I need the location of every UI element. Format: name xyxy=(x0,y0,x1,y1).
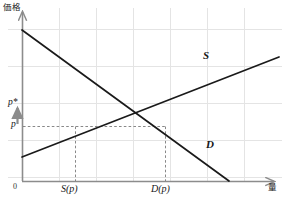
grid-lines xyxy=(8,8,282,181)
supply-demand-figure: 価格 量 0 p* p S(p) D(p) S D xyxy=(0,0,282,200)
diagram-canvas xyxy=(0,0,282,200)
supply-curve xyxy=(22,57,279,157)
guide-lines xyxy=(23,127,166,182)
demand-curve xyxy=(22,30,229,181)
